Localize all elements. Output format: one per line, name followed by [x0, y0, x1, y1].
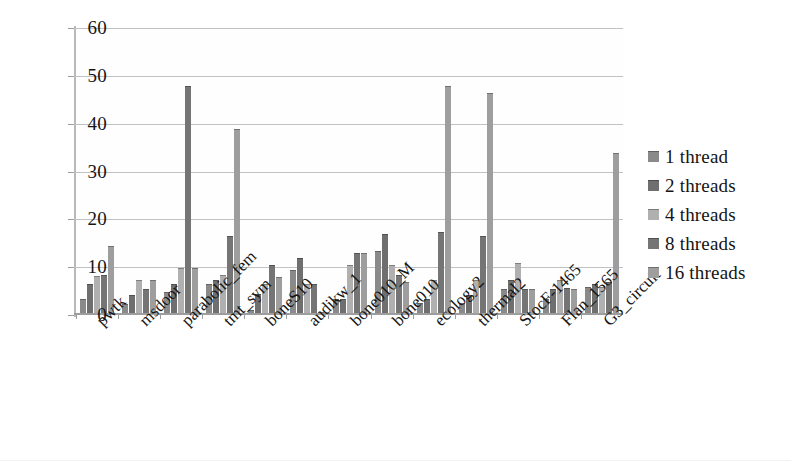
bar: [487, 93, 493, 313]
legend-label: 2 threads: [665, 176, 736, 196]
legend-swatch-icon: [648, 267, 659, 278]
bar: [480, 236, 486, 313]
bar-group: [160, 28, 202, 313]
legend-swatch-icon: [648, 180, 659, 191]
legend-label: 8 threads: [665, 234, 736, 254]
bar: [234, 129, 240, 313]
legend-item[interactable]: 8 threads: [648, 229, 788, 258]
bar-group: [244, 28, 286, 313]
legend-item[interactable]: 4 threads: [648, 200, 788, 229]
bar: [438, 232, 444, 313]
y-tick-label: 10: [59, 257, 107, 276]
bar: [185, 86, 191, 313]
bar-group: [455, 28, 497, 313]
bar-group: [497, 28, 539, 313]
bar: [136, 280, 142, 313]
bar-chart: 6050403020100 pwtkmsdoorparabolic_femtmt…: [0, 0, 791, 461]
bar: [129, 295, 135, 313]
legend: 1 thread2 threads4 threads8 threads16 th…: [648, 142, 788, 287]
bar: [445, 86, 451, 313]
bar-group: [413, 28, 455, 313]
legend-swatch-icon: [648, 238, 659, 249]
legend-swatch-icon: [648, 209, 659, 220]
bar-group: [286, 28, 328, 313]
bar: [613, 153, 619, 313]
y-tick-label: 60: [59, 18, 107, 37]
y-tick-label: 40: [59, 114, 107, 133]
y-tick-label: 50: [59, 66, 107, 85]
legend-item[interactable]: 2 threads: [648, 171, 788, 200]
legend-label: 4 threads: [665, 205, 736, 225]
x-axis-category-labels: pwtkmsdoorparabolic_femtmt_symboneS10aud…: [74, 317, 623, 427]
y-tick-label: 30: [59, 162, 107, 181]
legend-swatch-icon: [648, 151, 659, 162]
bar-group: [118, 28, 160, 313]
y-tick-label: 20: [59, 209, 107, 228]
legend-item[interactable]: 16 threads: [648, 258, 788, 287]
legend-label: 1 thread: [665, 147, 728, 167]
legend-item[interactable]: 1 thread: [648, 142, 788, 171]
legend-label: 16 threads: [665, 263, 746, 283]
